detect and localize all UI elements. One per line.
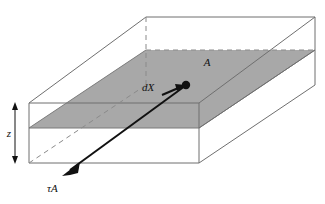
thickness-label: z bbox=[6, 127, 12, 139]
marker-dot bbox=[182, 81, 190, 89]
shaded-plane-area-A bbox=[29, 50, 315, 128]
shear-force-label: τA bbox=[47, 182, 58, 194]
thickness-dimension-arrow bbox=[12, 102, 18, 164]
figure-canvas: z A τA dX bbox=[0, 0, 325, 204]
block-diagram-svg: z A τA dX bbox=[0, 0, 325, 204]
displacement-label: dX bbox=[142, 81, 156, 93]
area-label: A bbox=[203, 56, 211, 68]
